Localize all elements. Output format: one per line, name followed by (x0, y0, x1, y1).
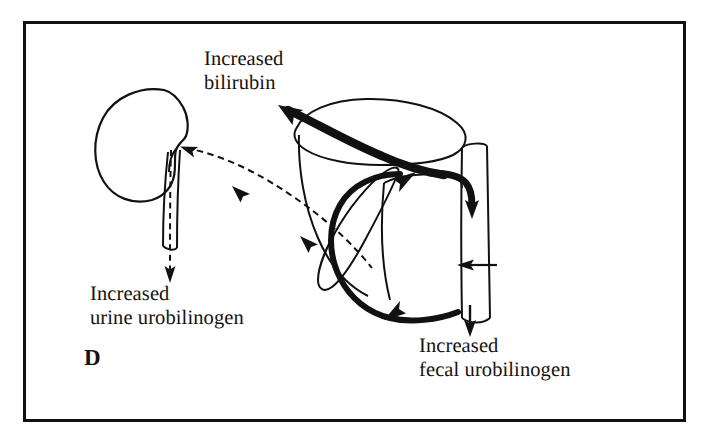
label-increased-fecal-urobilinogen-line2: fecal urobilinogen (419, 359, 571, 381)
label-increased-fecal-urobilinogen: Increasedfecal urobilinogen (419, 335, 571, 383)
figure-frame (25, 23, 685, 421)
label-increased-urine-urobilinogen-line2: urine urobilinogen (90, 307, 244, 329)
figure-panel-d: Increasedbilirubin Increasedurine urobil… (0, 0, 708, 447)
label-increased-bilirubin-line2: bilirubin (204, 72, 276, 94)
label-increased-bilirubin-line1: Increased (204, 48, 283, 70)
label-increased-bilirubin: Increasedbilirubin (204, 48, 283, 96)
intestine-wall-left (461, 148, 462, 318)
label-increased-fecal-urobilinogen-line1: Increased (419, 335, 498, 357)
label-increased-urine-urobilinogen: Increasedurine urobilinogen (90, 283, 244, 331)
panel-letter-d: D (84, 345, 101, 372)
label-increased-urine-urobilinogen-line1: Increased (90, 283, 169, 305)
anatomy-diagram (0, 0, 708, 447)
